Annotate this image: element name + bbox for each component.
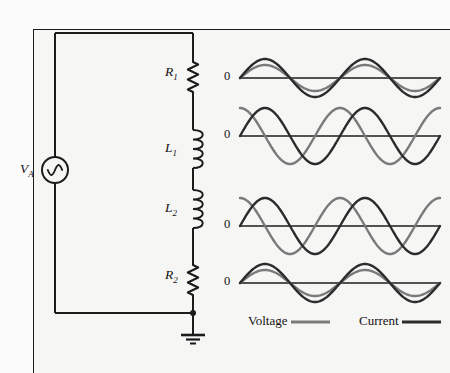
component-label-main: L [165, 200, 173, 215]
component-label-main: R [165, 64, 173, 79]
component-L1-inductor-symbol [193, 130, 203, 168]
waveform-panel-R1 [240, 59, 440, 97]
component-label-L1: L1 [165, 140, 177, 158]
axis-zero-label-R2: 0 [224, 274, 230, 289]
component-label-main: L [165, 140, 173, 155]
component-label-main: R [165, 267, 173, 282]
waveform-panel-L2 [240, 198, 440, 254]
component-R1-resistor-symbol [188, 62, 198, 92]
circuit-diagram [42, 33, 205, 344]
axis-zero-label-L2: 0 [224, 217, 230, 232]
source-label-main: V [20, 161, 28, 176]
source-label-sub: A [28, 169, 34, 179]
component-label-sub: 2 [173, 208, 178, 218]
component-label-L2: L2 [165, 200, 177, 218]
source-label-VA: VA [20, 161, 34, 179]
waveform-panel-R2 [240, 264, 440, 302]
component-label-R2: R2 [165, 267, 178, 285]
component-label-sub: 1 [173, 72, 178, 82]
axis-zero-label-R1: 0 [224, 69, 230, 84]
ac-source-sine-icon [48, 165, 62, 175]
legend-label-voltage: Voltage [248, 313, 287, 329]
component-R2-resistor-symbol [188, 265, 198, 295]
waveform-panel-L1 [240, 108, 440, 164]
figure-root: VAR1L1L2R20000VoltageCurrent [0, 0, 450, 373]
waveform-panels [240, 59, 440, 302]
axis-zero-label-L1: 0 [224, 127, 230, 142]
component-L2-inductor-symbol [193, 190, 203, 228]
component-label-sub: 2 [173, 275, 178, 285]
component-label-R1: R1 [165, 64, 178, 82]
legend-label-current: Current [359, 313, 399, 329]
component-label-sub: 1 [173, 148, 178, 158]
